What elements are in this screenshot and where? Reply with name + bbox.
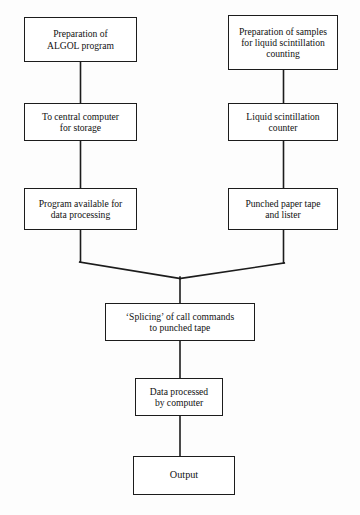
node-data-processed: Data processed by computer <box>135 378 223 416</box>
node-sample-prep: Preparation of samples for liquid scinti… <box>228 15 338 70</box>
node-punched-paper-tape-label: Punched paper tape and lister <box>242 198 323 221</box>
edge-program-diagonal <box>80 262 180 279</box>
node-program-available: Program available for data processing <box>24 188 137 230</box>
node-liquid-scintillation-counter: Liquid scintillation counter <box>228 103 338 141</box>
node-splicing-label: ‘Splicing’ of call commands to punched t… <box>123 311 237 334</box>
node-splicing: ‘Splicing’ of call commands to punched t… <box>105 303 255 341</box>
node-algol-prep: Preparation of ALGOL program <box>24 17 137 62</box>
node-central-computer-label: To central computer for storage <box>39 111 122 134</box>
node-data-processed-label: Data processed by computer <box>147 386 211 409</box>
node-central-computer: To central computer for storage <box>24 103 137 141</box>
node-liquid-scintillation-counter-label: Liquid scintillation counter <box>243 111 322 134</box>
flowchart-diagram: Preparation of ALGOL program Preparation… <box>0 0 360 515</box>
node-output: Output <box>133 456 235 495</box>
node-punched-paper-tape: Punched paper tape and lister <box>228 188 338 230</box>
edge-tape-diagonal <box>180 263 284 279</box>
connector-lines <box>0 0 360 515</box>
node-algol-prep-label: Preparation of ALGOL program <box>44 28 117 51</box>
node-program-available-label: Program available for data processing <box>36 198 126 221</box>
node-sample-prep-label: Preparation of samples for liquid scinti… <box>236 26 330 60</box>
node-output-label: Output <box>167 469 201 481</box>
